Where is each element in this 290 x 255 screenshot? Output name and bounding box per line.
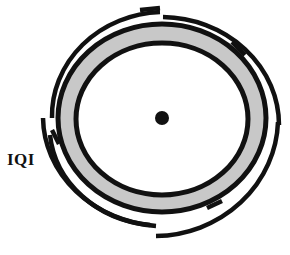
film-arc-top-short	[140, 8, 160, 10]
iqi-label: IQI	[7, 150, 35, 170]
source-dot	[155, 111, 169, 125]
pipe-cross-section-diagram	[0, 0, 290, 255]
